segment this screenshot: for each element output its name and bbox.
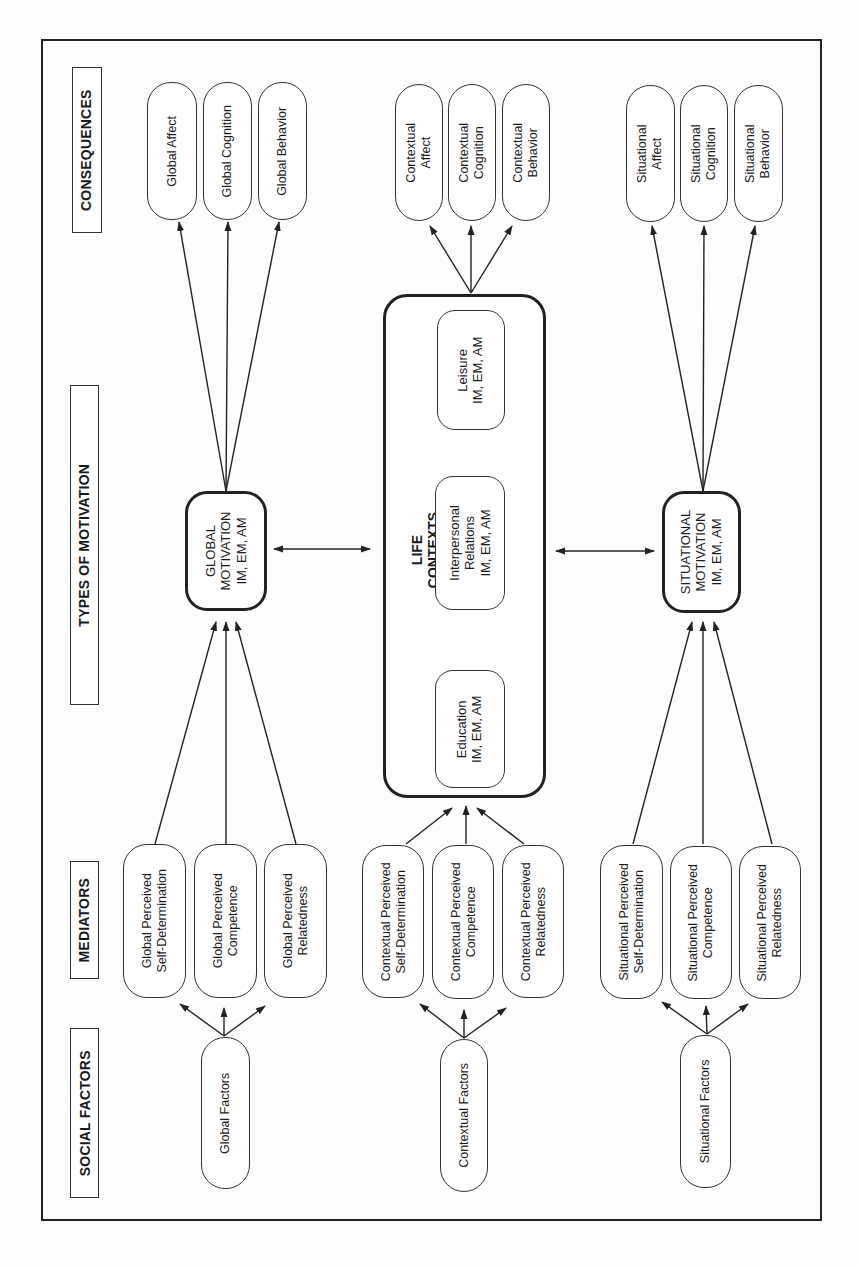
node-label: Global Factors bbox=[218, 1072, 233, 1153]
node-label: SITUATIONALMOTIVATIONIM, EM, AM bbox=[679, 510, 725, 594]
node-leisure: LeisureIM, EM, AM bbox=[437, 310, 505, 430]
header-consequences: CONSEQUENCES bbox=[72, 67, 102, 233]
node-label: Global PerceivedRelatedness bbox=[281, 873, 311, 968]
node-label: ContextualAffect bbox=[404, 123, 434, 183]
node-global-motivation: GLOBALMOTIVATIONIM, EM, AM bbox=[185, 491, 267, 611]
node-contextual-perceived-competence: Contextual PerceivedCompetence bbox=[432, 845, 494, 999]
node-contextual-affect: ContextualAffect bbox=[395, 84, 443, 221]
node-label: Contextual PerceivedSelf-Determination bbox=[378, 862, 408, 981]
node-label: ContextualBehavior bbox=[511, 123, 541, 183]
node-situational-factors: Situational Factors bbox=[680, 1035, 731, 1188]
node-global-factors: Global Factors bbox=[201, 1037, 250, 1189]
node-label: Contextual PerceivedRelatedness bbox=[518, 862, 548, 981]
node-global-perceived-self-determination: Global PerceivedSelf-Determination bbox=[123, 844, 186, 998]
node-global-affect: Global Affect bbox=[147, 82, 197, 220]
node-situational-perceived-self-determination: Situational PerceivedSelf-Determination bbox=[600, 845, 663, 999]
node-interpersonal-relations: InterpersonalRelationsIM, EM, AM bbox=[435, 476, 505, 610]
node-label: ContextualCognition bbox=[457, 123, 487, 183]
node-situational-affect: SituationalAffect bbox=[626, 85, 675, 222]
node-label: LeisureIM, EM, AM bbox=[456, 336, 487, 403]
node-situational-behavior: SituationalBehavior bbox=[734, 85, 783, 222]
node-label: SituationalAffect bbox=[636, 124, 666, 182]
node-global-perceived-relatedness: Global PerceivedRelatedness bbox=[264, 844, 327, 998]
node-situational-motivation: SITUATIONALMOTIVATIONIM, EM, AM bbox=[662, 491, 741, 613]
node-situational-cognition: SituationalCognition bbox=[680, 85, 728, 222]
node-label: Situational PerceivedRelatedness bbox=[755, 864, 785, 981]
node-label: Situational PerceivedSelf-Determination bbox=[617, 863, 647, 980]
node-label: Global PerceivedCompetence bbox=[211, 873, 241, 968]
node-label: Global Affect bbox=[165, 116, 180, 187]
header-types-of-motivation: TYPES OF MOTIVATION bbox=[70, 385, 99, 705]
life-contexts-title: LIFE CONTEXTS bbox=[409, 510, 429, 590]
node-label: Global PerceivedSelf-Determination bbox=[140, 869, 170, 973]
node-situational-perceived-competence: Situational PerceivedCompetence bbox=[670, 846, 732, 999]
header-consequences-label: CONSEQUENCES bbox=[79, 89, 96, 210]
node-label: Situational PerceivedCompetence bbox=[686, 864, 716, 981]
node-label: Global Behavior bbox=[275, 107, 290, 196]
node-label: Contextual Factors bbox=[457, 1063, 472, 1168]
header-mediators: MEDIATORS bbox=[70, 861, 99, 979]
node-global-cognition: Global Cognition bbox=[203, 82, 252, 220]
node-contextual-behavior: ContextualBehavior bbox=[502, 84, 550, 221]
node-label: InterpersonalRelationsIM, EM, AM bbox=[447, 505, 493, 581]
node-label: SituationalCognition bbox=[689, 124, 719, 182]
node-education: EducationIM, EM, AM bbox=[435, 670, 505, 788]
node-label: SituationalBehavior bbox=[744, 124, 774, 182]
header-social-factors: SOCIAL FACTORS bbox=[70, 1028, 99, 1198]
header-social-factors-label: SOCIAL FACTORS bbox=[76, 1050, 93, 1176]
node-global-behavior: Global Behavior bbox=[258, 82, 307, 220]
node-label: Situational Factors bbox=[698, 1060, 713, 1164]
header-types-of-motivation-label: TYPES OF MOTIVATION bbox=[76, 464, 93, 627]
node-contextual-cognition: ContextualCognition bbox=[448, 84, 496, 221]
node-global-perceived-competence: Global PerceivedCompetence bbox=[194, 844, 257, 998]
node-label: EducationIM, EM, AM bbox=[455, 695, 486, 762]
node-label: GLOBALMOTIVATIONIM, EM, AM bbox=[203, 512, 249, 591]
node-label: Global Cognition bbox=[220, 105, 235, 197]
node-label: Contextual PerceivedCompetence bbox=[448, 863, 478, 982]
node-contextual-perceived-relatedness: Contextual PerceivedRelatedness bbox=[502, 845, 564, 998]
node-contextual-factors: Contextual Factors bbox=[440, 1039, 488, 1192]
node-contextual-perceived-self-determination: Contextual PerceivedSelf-Determination bbox=[362, 845, 424, 998]
node-situational-perceived-relatedness: Situational PerceivedRelatedness bbox=[739, 846, 801, 999]
header-mediators-label: MEDIATORS bbox=[76, 878, 93, 963]
